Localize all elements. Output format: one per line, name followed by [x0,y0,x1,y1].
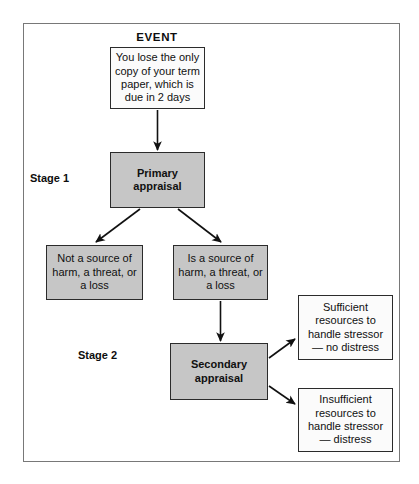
insufficient-resources-text: Insufficient resources to handle stresso… [299,393,392,447]
sufficient-resources-text: Sufficient resources to handle stressor—… [299,301,392,355]
event-description-text: You lose the only copy of your term pape… [111,51,204,105]
sufficient-resources-outcome-box: Sufficient resources to handle stressor—… [298,295,393,360]
stage-1-label: Stage 1 [30,172,69,184]
insufficient-resources-outcome-box: Insufficient resources to handle stresso… [298,388,393,452]
secondary-appraisal-text: Secondary appraisal [171,358,267,385]
figure-canvas: EVENT You lose the only copy of your ter… [0,0,419,484]
is-a-source-outcome-text: Is a source of harm, a threat, or a loss [174,252,267,292]
event-description-box: You lose the only copy of your term pape… [110,47,205,109]
not-a-source-outcome-text: Not a source of harm, a threat, or a los… [47,252,142,292]
not-a-source-outcome-box: Not a source of harm, a threat, or a los… [46,245,143,300]
primary-appraisal-text: Primary appraisal [111,167,204,194]
primary-appraisal-box: Primary appraisal [110,152,205,208]
is-a-source-outcome-box: Is a source of harm, a threat, or a loss [173,245,268,300]
stage-2-label: Stage 2 [78,349,117,361]
event-title-label: EVENT [134,31,180,43]
secondary-appraisal-box: Secondary appraisal [170,343,268,400]
